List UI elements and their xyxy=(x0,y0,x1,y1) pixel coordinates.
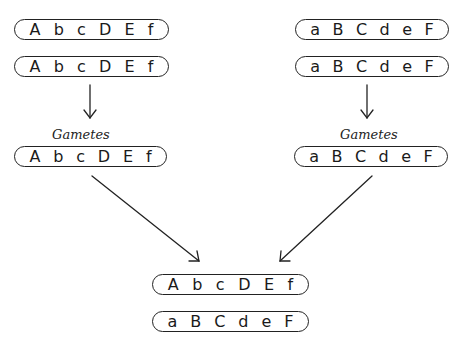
left-fertilization-arrow-icon xyxy=(92,176,199,261)
right-fertilization-arrow-icon xyxy=(280,176,372,261)
right-meiosis-arrow-icon xyxy=(361,85,373,118)
arrows-layer xyxy=(0,0,458,345)
left-meiosis-arrow-icon xyxy=(84,85,96,118)
